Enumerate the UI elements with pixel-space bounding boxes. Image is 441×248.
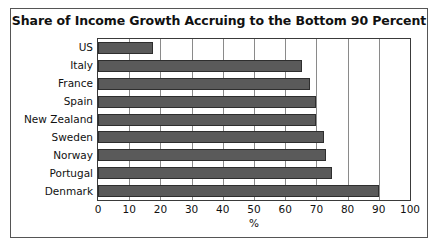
bar — [98, 78, 310, 90]
bar-row — [98, 149, 410, 161]
category-label: France — [1, 77, 93, 89]
x-axis-tick-labels: 0102030405060708090100 — [97, 203, 411, 217]
chart-title: Share of Income Growth Accruing to the B… — [10, 13, 428, 28]
x-tick-label: 100 — [400, 203, 420, 215]
x-tick-label: 40 — [216, 203, 229, 215]
plot-area — [97, 38, 411, 201]
x-axis-label: % — [97, 217, 411, 229]
category-label: Norway — [1, 149, 93, 161]
bar — [98, 131, 324, 143]
bar — [98, 185, 379, 197]
bar-row — [98, 60, 410, 72]
bar-row — [98, 96, 410, 108]
bar-row — [98, 42, 410, 54]
bar — [98, 114, 316, 126]
category-label: Sweden — [1, 131, 93, 143]
x-tick-label: 60 — [279, 203, 292, 215]
bar-row — [98, 131, 410, 143]
x-tick-label: 50 — [247, 203, 260, 215]
bar — [98, 149, 326, 161]
category-label: Italy — [1, 59, 93, 71]
category-label: New Zealand — [1, 113, 93, 125]
bar-row — [98, 114, 410, 126]
x-tick-label: 70 — [310, 203, 323, 215]
bar — [98, 96, 316, 108]
bar — [98, 42, 153, 54]
chart-figure: Share of Income Growth Accruing to the B… — [0, 0, 441, 248]
category-label: Portugal — [1, 167, 93, 179]
y-axis-category-labels: USItalyFranceSpainNew ZealandSwedenNorwa… — [0, 38, 93, 201]
bar — [98, 167, 332, 179]
x-tick-label: 20 — [154, 203, 167, 215]
category-label: US — [1, 41, 93, 53]
bar — [98, 60, 302, 72]
x-tick-label: 0 — [95, 203, 102, 215]
bar-row — [98, 185, 410, 197]
category-label: Denmark — [1, 185, 93, 197]
x-tick-label: 80 — [341, 203, 354, 215]
bar-row — [98, 167, 410, 179]
x-tick-label: 30 — [185, 203, 198, 215]
x-tick-label: 10 — [123, 203, 136, 215]
bar-row — [98, 78, 410, 90]
x-tick-label: 90 — [372, 203, 385, 215]
category-label: Spain — [1, 95, 93, 107]
